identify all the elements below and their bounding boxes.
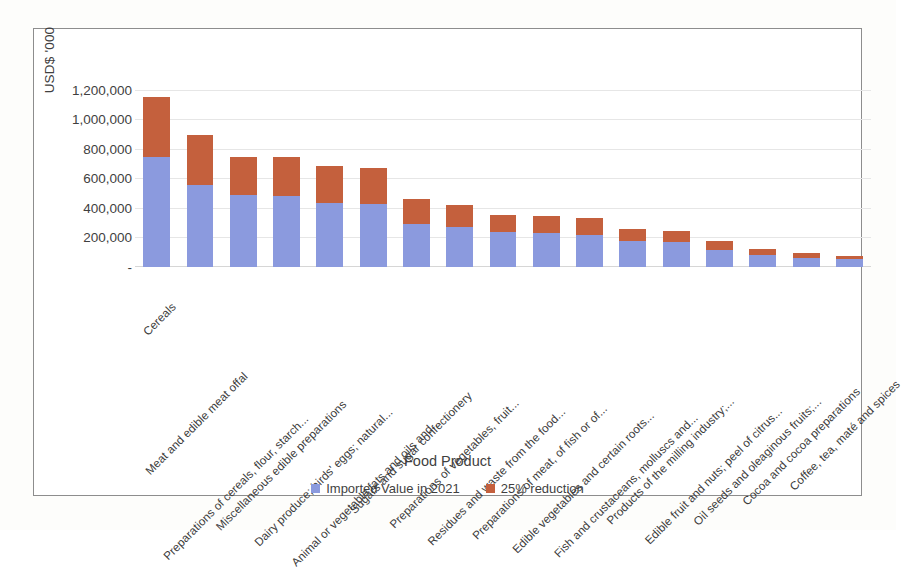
bar-segment-reduction[interactable]	[446, 205, 473, 227]
bar-segment-reduction[interactable]	[143, 97, 170, 156]
bar-segment-reduction[interactable]	[316, 166, 343, 202]
y-axis-tick-label: 600,000	[46, 171, 132, 186]
bar-segment-imported-value[interactable]	[273, 196, 300, 267]
x-axis-tick-slot: Meat and edible meat offal	[178, 269, 221, 459]
y-axis-tick-labels: -200,000400,000600,000800,0001,000,0001,…	[40, 75, 132, 267]
x-axis-tick-labels: CerealsMeat and edible meat offalPrepara…	[135, 269, 871, 459]
bar-segment-imported-value[interactable]	[836, 259, 863, 267]
y-axis-tick-label: 400,000	[46, 200, 132, 215]
bar-series-group	[135, 75, 871, 267]
stacked-bar[interactable]	[793, 253, 820, 267]
stacked-bar[interactable]	[187, 135, 214, 267]
stacked-bar[interactable]	[533, 216, 560, 267]
bar-segment-reduction[interactable]	[619, 229, 646, 241]
stacked-bar[interactable]	[490, 215, 517, 267]
bar-segment-reduction[interactable]	[576, 218, 603, 235]
bar-slot	[438, 75, 481, 267]
x-axis-tick-slot: Sugars and sugar confectionery	[395, 269, 438, 459]
stacked-bar[interactable]	[360, 168, 387, 267]
x-axis-tick-slot: Cereals	[135, 269, 178, 459]
y-axis-tick-label: 200,000	[46, 230, 132, 245]
bar-segment-imported-value[interactable]	[490, 232, 517, 267]
bar-segment-imported-value[interactable]	[706, 250, 733, 267]
stacked-bar[interactable]	[749, 249, 776, 267]
y-axis-tick-label: 800,000	[46, 141, 132, 156]
chart-legend: Imported Value in 202125% reduction	[34, 481, 861, 496]
bar-segment-imported-value[interactable]	[316, 203, 343, 267]
bar-segment-imported-value[interactable]	[230, 195, 257, 267]
bar-slot	[222, 75, 265, 267]
stacked-bar[interactable]	[836, 256, 863, 267]
x-axis-title: Food Product	[34, 453, 861, 469]
bar-segment-imported-value[interactable]	[576, 235, 603, 267]
legend-label: 25% reduction	[501, 481, 584, 496]
bar-segment-imported-value[interactable]	[360, 204, 387, 267]
bar-slot	[265, 75, 308, 267]
stacked-bar[interactable]	[619, 229, 646, 267]
stacked-bar[interactable]	[403, 199, 430, 267]
bar-segment-imported-value[interactable]	[793, 258, 820, 267]
x-axis-tick-label: Cereals	[140, 300, 178, 338]
bar-slot	[351, 75, 394, 267]
x-axis-tick-slot: Edible vegetables and certain roots...	[568, 269, 611, 459]
x-axis-tick-slot: Preparations of meat, of fish or of...	[525, 269, 568, 459]
bar-slot	[698, 75, 741, 267]
x-axis-tick-slot: Coffee, tea, maté and spices	[828, 269, 871, 459]
bar-slot	[655, 75, 698, 267]
bar-slot	[611, 75, 654, 267]
bar-slot	[481, 75, 524, 267]
x-axis-tick-slot: Preparations of cereals, flour, starch..…	[222, 269, 265, 459]
bar-slot	[178, 75, 221, 267]
bar-segment-imported-value[interactable]	[187, 185, 214, 267]
stacked-bar[interactable]	[316, 166, 343, 267]
stacked-bar[interactable]	[663, 231, 690, 267]
stacked-bar[interactable]	[230, 157, 257, 267]
bar-segment-imported-value[interactable]	[533, 233, 560, 267]
bar-slot	[525, 75, 568, 267]
bar-segment-reduction[interactable]	[187, 135, 214, 185]
stacked-bar[interactable]	[576, 218, 603, 267]
stacked-bar[interactable]	[706, 241, 733, 267]
x-axis-tick-slot: Products of the milling industry;...	[655, 269, 698, 459]
bar-segment-reduction[interactable]	[360, 168, 387, 204]
x-axis-tick-slot: Dairy produce; birds' eggs; natural...	[308, 269, 351, 459]
x-axis-tick-slot: Preparations of vegetables, fruit...	[438, 269, 481, 459]
legend-swatch-icon	[486, 484, 495, 493]
y-axis-tick-label: 1,000,000	[46, 112, 132, 127]
bar-segment-imported-value[interactable]	[446, 227, 473, 267]
legend-item[interactable]: 25% reduction	[486, 481, 584, 496]
bar-segment-reduction[interactable]	[490, 215, 517, 231]
bar-segment-imported-value[interactable]	[143, 157, 170, 267]
legend-swatch-icon	[311, 484, 320, 493]
y-axis-tick-label: 1,200,000	[46, 82, 132, 97]
stacked-bar[interactable]	[446, 205, 473, 267]
y-axis-tick-label: -	[46, 260, 132, 275]
bar-segment-reduction[interactable]	[663, 231, 690, 242]
bar-slot	[395, 75, 438, 267]
bar-slot	[828, 75, 871, 267]
x-axis-tick-slot: Edible fruit and nuts; peel of citrus...	[698, 269, 741, 459]
x-axis-tick-slot: Animal or vegetable fats and oils and...	[351, 269, 394, 459]
legend-item[interactable]: Imported Value in 2021	[311, 481, 459, 496]
bar-slot	[135, 75, 178, 267]
bar-segment-reduction[interactable]	[230, 157, 257, 195]
bar-segment-imported-value[interactable]	[663, 242, 690, 267]
bar-slot	[741, 75, 784, 267]
bar-segment-imported-value[interactable]	[749, 255, 776, 267]
x-axis-tick-slot: Cocoa and cocoa preparations	[784, 269, 827, 459]
stacked-bar[interactable]	[143, 97, 170, 267]
bar-segment-reduction[interactable]	[273, 157, 300, 196]
bar-segment-reduction[interactable]	[533, 216, 560, 232]
bar-segment-imported-value[interactable]	[619, 241, 646, 267]
stacked-bar[interactable]	[273, 157, 300, 267]
bar-slot	[568, 75, 611, 267]
bar-segment-reduction[interactable]	[403, 199, 430, 224]
x-axis-tick-slot: Oil seeds and oleaginous fruits;...	[741, 269, 784, 459]
chart-frame: USD$ '000 -200,000400,000600,000800,0001…	[33, 28, 862, 496]
bar-segment-reduction[interactable]	[706, 241, 733, 249]
bar-slot	[784, 75, 827, 267]
legend-label: Imported Value in 2021	[326, 481, 459, 496]
bar-slot	[308, 75, 351, 267]
bar-segment-imported-value[interactable]	[403, 224, 430, 267]
